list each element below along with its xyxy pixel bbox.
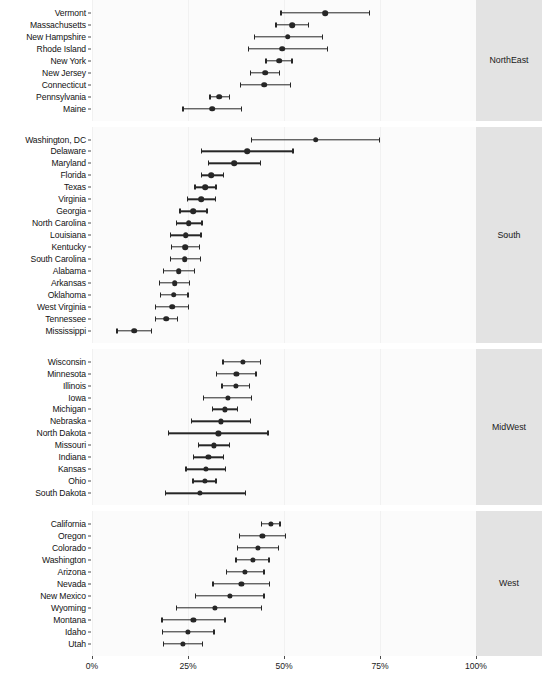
data-point bbox=[183, 232, 189, 238]
ci-cap-upper bbox=[379, 137, 380, 142]
data-point bbox=[234, 371, 239, 376]
data-point bbox=[222, 407, 227, 412]
confidence-interval-bar bbox=[165, 492, 246, 493]
data-point bbox=[191, 208, 197, 214]
gridline bbox=[284, 127, 285, 343]
row-label: Utah bbox=[68, 639, 86, 648]
data-point bbox=[206, 455, 211, 460]
ci-cap-lower bbox=[216, 371, 217, 376]
data-point bbox=[261, 82, 267, 88]
ci-cap-lower bbox=[160, 292, 161, 297]
ci-cap-lower bbox=[265, 58, 266, 63]
ci-cap-lower bbox=[254, 34, 255, 39]
ci-cap-upper bbox=[187, 292, 188, 297]
y-axis-tick bbox=[88, 559, 91, 560]
data-point bbox=[276, 58, 282, 64]
y-axis-tick bbox=[88, 547, 91, 548]
x-axis-tick-label: 25% bbox=[179, 661, 196, 671]
data-point bbox=[191, 617, 196, 622]
ci-cap-lower bbox=[171, 245, 172, 250]
y-axis-tick bbox=[88, 385, 91, 386]
row-label: Indiana bbox=[59, 453, 87, 462]
ci-cap-upper bbox=[269, 581, 270, 586]
data-point bbox=[198, 196, 204, 202]
y-axis-tick bbox=[88, 84, 91, 85]
x-axis-tick-label: 50% bbox=[275, 661, 292, 671]
y-axis-tick bbox=[88, 607, 91, 608]
ci-cap-lower bbox=[193, 455, 194, 460]
row-label: Florida bbox=[60, 171, 86, 180]
y-axis-tick bbox=[88, 211, 91, 212]
confidence-interval-bar bbox=[248, 48, 328, 49]
ci-cap-upper bbox=[229, 443, 230, 448]
y-axis-tick bbox=[88, 36, 91, 37]
row-label: Michigan bbox=[52, 405, 86, 414]
ci-cap-lower bbox=[235, 557, 236, 562]
y-axis-tick bbox=[88, 306, 91, 307]
data-point bbox=[216, 431, 221, 436]
data-point bbox=[268, 521, 273, 526]
row-label: Massachusetts bbox=[30, 21, 86, 30]
data-point bbox=[322, 10, 328, 16]
ci-cap-lower bbox=[163, 268, 164, 273]
row-label: Louisiana bbox=[50, 231, 86, 240]
data-point bbox=[225, 395, 230, 400]
ci-cap-lower bbox=[201, 149, 202, 154]
row-label: Mississippi bbox=[46, 326, 86, 335]
y-axis-tick bbox=[88, 96, 91, 97]
ci-cap-lower bbox=[182, 106, 183, 111]
ci-cap-lower bbox=[159, 280, 160, 285]
data-point bbox=[209, 106, 215, 112]
ci-cap-upper bbox=[290, 82, 291, 87]
x-axis-tick-label: 0% bbox=[86, 661, 98, 671]
ci-cap-upper bbox=[224, 617, 225, 622]
ci-cap-lower bbox=[248, 46, 249, 51]
ci-cap-lower bbox=[155, 304, 156, 309]
ci-cap-lower bbox=[168, 431, 169, 436]
row-label: Pennsylvania bbox=[36, 92, 86, 101]
ci-cap-lower bbox=[261, 522, 262, 527]
ci-cap-lower bbox=[163, 641, 164, 646]
ci-cap-upper bbox=[201, 221, 202, 226]
y-axis-tick bbox=[88, 643, 91, 644]
data-point bbox=[255, 545, 260, 550]
ci-cap-upper bbox=[215, 479, 216, 484]
ci-cap-lower bbox=[161, 617, 162, 622]
y-axis-labels: VermontMassachusettsNew HampshireRhode I… bbox=[0, 0, 92, 121]
facet-strip-south: South bbox=[476, 127, 542, 343]
ci-cap-lower bbox=[222, 359, 223, 364]
gridline bbox=[284, 349, 285, 505]
ci-cap-lower bbox=[195, 593, 196, 598]
panel-northeast: VermontMassachusettsNew HampshireRhode I… bbox=[0, 0, 542, 121]
ci-cap-upper bbox=[369, 10, 370, 15]
y-axis-tick bbox=[88, 199, 91, 200]
row-label: West Virginia bbox=[37, 303, 86, 312]
ci-cap-upper bbox=[260, 359, 261, 364]
ci-cap-lower bbox=[251, 137, 252, 142]
ci-cap-upper bbox=[292, 149, 293, 154]
plot-area bbox=[92, 0, 476, 121]
data-point bbox=[164, 316, 170, 322]
facet-strip-midwest: MidWest bbox=[476, 349, 542, 505]
gridline bbox=[188, 0, 189, 121]
row-label: Oklahoma bbox=[48, 291, 86, 300]
y-axis-tick bbox=[88, 445, 91, 446]
ci-cap-upper bbox=[327, 46, 328, 51]
y-axis-tick bbox=[88, 457, 91, 458]
x-axis-tick bbox=[284, 656, 285, 659]
ci-cap-upper bbox=[251, 395, 252, 400]
ci-cap-upper bbox=[202, 641, 203, 646]
y-axis-tick bbox=[88, 187, 91, 188]
y-axis-tick bbox=[88, 481, 91, 482]
y-axis-tick bbox=[88, 595, 91, 596]
row-label: Delaware bbox=[50, 147, 86, 156]
panel-west: CaliforniaOregonColoradoWashingtonArizon… bbox=[0, 511, 542, 655]
y-axis-tick bbox=[88, 631, 91, 632]
facet-strip-northeast: NorthEast bbox=[476, 0, 542, 121]
ci-cap-lower bbox=[170, 233, 171, 238]
data-point bbox=[180, 641, 185, 646]
row-label: Idaho bbox=[65, 627, 86, 636]
ci-cap-lower bbox=[275, 22, 276, 27]
ci-cap-upper bbox=[200, 233, 201, 238]
